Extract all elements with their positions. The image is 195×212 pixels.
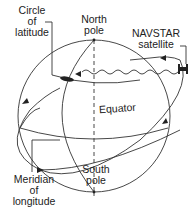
label-navstar-satellite: NAVSTAR satellite <box>131 28 181 50</box>
label-meridian-of-longitude: Meridian of longitude <box>12 174 56 207</box>
label-south-pole: South pole <box>80 164 112 186</box>
signal-wave <box>82 70 178 74</box>
label-north-pole: North pole <box>76 14 112 36</box>
orbit-arrow-top <box>160 55 166 61</box>
label-line: satellite <box>131 39 181 50</box>
label-circle-of-latitude: Circle of latitude <box>14 5 50 38</box>
signal-arrow <box>75 71 81 77</box>
orbit-arrow-left <box>22 98 29 104</box>
satellite-icon <box>180 67 186 71</box>
label-line: pole <box>76 25 112 36</box>
label-line: longitude <box>12 196 56 207</box>
orbit-arrow-right <box>162 118 168 124</box>
meridian-leader <box>32 140 60 172</box>
label-line: latitude <box>14 27 50 38</box>
receiver-icon <box>60 75 75 82</box>
label-line: pole <box>80 175 112 186</box>
